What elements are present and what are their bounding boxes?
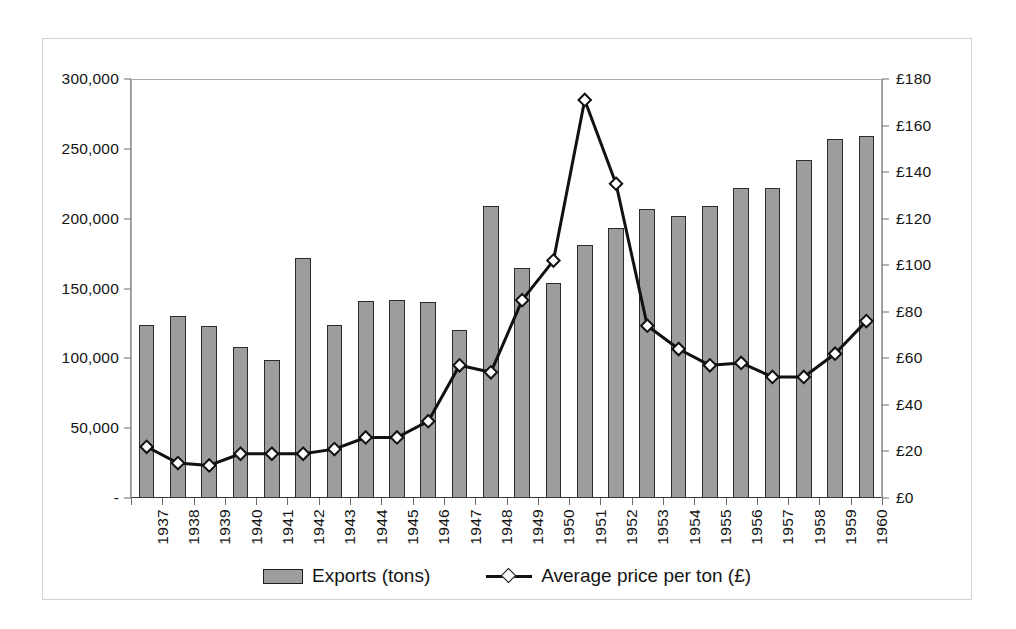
left-axis-tick — [124, 288, 131, 289]
category-tick — [162, 498, 163, 505]
right-axis-tick — [882, 79, 889, 80]
left-axis-tick — [124, 148, 131, 149]
category-label: 1941 — [279, 509, 297, 545]
category-axis: 1937193819391940194119421943194419451946… — [131, 498, 882, 558]
category-label: 1942 — [310, 509, 328, 545]
category-tick — [131, 498, 132, 505]
right-axis-tick — [882, 404, 889, 405]
category-label: 1956 — [748, 509, 766, 545]
category-label: 1940 — [248, 509, 266, 545]
category-label: 1955 — [717, 509, 735, 545]
category-label: 1947 — [467, 509, 485, 545]
right-axis-tick-label: £120 — [896, 210, 931, 228]
left-axis-tick — [124, 79, 131, 80]
right-axis-tick-label: £60 — [896, 349, 922, 367]
left-axis-tick-label: 200,000 — [62, 210, 119, 228]
price-marker: 1941: £19 — [266, 448, 278, 460]
plot-area: 1937: £221938: £151939: £141940: £191941… — [131, 79, 882, 498]
left-axis-tick-label: 50,000 — [70, 419, 119, 437]
right-value-axis: £180£160£140£120£100£80£60£40£20£0 — [882, 79, 973, 498]
right-axis-tick — [882, 311, 889, 312]
price-marker: 1937: £22 — [140, 441, 152, 453]
price-marker: 1955: £57 — [704, 359, 716, 371]
category-tick — [788, 498, 789, 505]
category-label: 1945 — [404, 509, 422, 545]
left-axis-tick — [124, 358, 131, 359]
line-diamond-swatch-icon — [486, 568, 532, 584]
legend-item-exports[interactable]: Exports (tons) — [263, 565, 430, 587]
price-marker: 1939: £14 — [203, 459, 215, 471]
price-marker: 1948: £54 — [485, 366, 497, 378]
price-markers: 1937: £221938: £151939: £141940: £191941… — [140, 94, 872, 472]
category-label: 1943 — [341, 509, 359, 545]
right-axis-tick — [882, 265, 889, 266]
right-axis-tick-label: £80 — [896, 303, 922, 321]
right-axis-tick — [882, 358, 889, 359]
line-series-average-price: 1937: £221938: £151939: £141940: £191941… — [131, 79, 882, 498]
price-marker: 1938: £15 — [172, 457, 184, 469]
category-tick — [319, 498, 320, 505]
legend-label-exports: Exports (tons) — [312, 565, 430, 587]
category-tick — [819, 498, 820, 505]
right-axis-tick-label: £160 — [896, 117, 931, 135]
left-axis-tick-label: 150,000 — [62, 280, 119, 298]
category-tick — [882, 498, 883, 505]
left-axis-tick-label: - — [114, 489, 119, 507]
right-axis-line — [882, 79, 883, 498]
category-label: 1948 — [498, 509, 516, 545]
price-marker: 1940: £19 — [234, 448, 246, 460]
category-tick — [350, 498, 351, 505]
bar-swatch-icon — [263, 569, 303, 584]
right-axis-tick-label: £40 — [896, 396, 922, 414]
category-tick — [757, 498, 758, 505]
category-tick — [663, 498, 664, 505]
category-tick — [726, 498, 727, 505]
right-axis-tick-label: £0 — [896, 489, 914, 507]
category-label: 1959 — [842, 509, 860, 545]
right-axis-tick-label: £20 — [896, 442, 922, 460]
category-label: 1946 — [435, 509, 453, 545]
category-tick — [569, 498, 570, 505]
category-label: 1954 — [686, 509, 704, 545]
left-value-axis: 300,000250,000200,000150,000100,00050,00… — [43, 79, 131, 498]
category-tick — [507, 498, 508, 505]
right-axis-tick-label: £140 — [896, 163, 931, 181]
category-tick — [413, 498, 414, 505]
category-label: 1953 — [654, 509, 672, 545]
right-axis-tick — [882, 451, 889, 452]
category-label: 1950 — [560, 509, 578, 545]
left-axis-tick-label: 250,000 — [62, 140, 119, 158]
price-marker: 1946: £33 — [422, 415, 434, 427]
category-tick — [225, 498, 226, 505]
category-tick — [851, 498, 852, 505]
price-marker: 1956: £58 — [735, 357, 747, 369]
chart-figure: 300,000250,000200,000150,000100,00050,00… — [42, 38, 972, 600]
category-tick — [475, 498, 476, 505]
category-label: 1937 — [154, 509, 172, 545]
price-marker: 1951: £171 — [579, 94, 591, 106]
left-axis-tick — [124, 218, 131, 219]
right-axis-tick — [882, 218, 889, 219]
price-marker: 1957: £52 — [766, 371, 778, 383]
category-label: 1944 — [373, 509, 391, 545]
price-marker: 1942: £19 — [297, 448, 309, 460]
price-marker: 1943: £21 — [328, 443, 340, 455]
chart-legend: Exports (tons) Average price per ton (£) — [43, 559, 971, 593]
right-axis-tick-label: £100 — [896, 256, 931, 274]
price-marker: 1947: £57 — [453, 359, 465, 371]
left-axis-tick-label: 100,000 — [62, 349, 119, 367]
right-axis-tick-label: £180 — [896, 70, 931, 88]
category-tick — [256, 498, 257, 505]
category-tick — [600, 498, 601, 505]
price-marker: 1952: £135 — [610, 178, 622, 190]
category-label: 1938 — [185, 509, 203, 545]
category-label: 1939 — [216, 509, 234, 545]
category-tick — [444, 498, 445, 505]
category-tick — [194, 498, 195, 505]
legend-item-average-price[interactable]: Average price per ton (£) — [486, 565, 751, 587]
price-line-path — [147, 100, 867, 465]
right-axis-tick — [882, 125, 889, 126]
left-axis-tick — [124, 498, 131, 499]
legend-label-average-price: Average price per ton (£) — [541, 565, 751, 587]
right-axis-tick — [882, 172, 889, 173]
